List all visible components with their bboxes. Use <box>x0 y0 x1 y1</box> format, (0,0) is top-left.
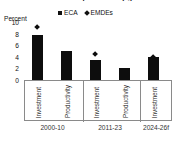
square-marker-icon <box>58 11 62 15</box>
period-label-2024-26f: 2024-26f <box>139 124 173 131</box>
bar-eca-2011-23-investment <box>90 60 101 80</box>
category-label-4: Productivity <box>123 85 129 118</box>
category-frame: Investment Productivity Investment Produ… <box>24 80 172 121</box>
group-separator-1 <box>83 81 84 122</box>
chart-title: Investment and productivity growth <box>0 0 178 1</box>
category-label-2: Productivity <box>65 85 71 118</box>
period-label-2000-10: 2000-10 <box>24 124 81 131</box>
chart-figure: Investment and productivity growth ECA E… <box>0 0 178 145</box>
y-tick-4: 4 <box>4 55 19 62</box>
category-label-3: Investment <box>94 87 100 118</box>
y-tick-6: 6 <box>4 43 19 50</box>
marker-emdes-2011-23-investment <box>93 51 99 57</box>
category-label-5: Investment <box>152 87 158 118</box>
plot-area <box>24 22 172 80</box>
marker-emdes-2000-10-investment <box>35 25 41 31</box>
legend-item-emdes: EMDEs <box>85 10 113 17</box>
y-tick-8: 8 <box>4 32 19 39</box>
legend-item-eca: ECA <box>58 10 78 17</box>
legend-label-emdes: EMDEs <box>91 10 113 17</box>
diamond-marker-icon <box>84 10 90 16</box>
legend-label-eca: ECA <box>64 10 78 17</box>
y-tick-2: 2 <box>4 66 19 73</box>
bar-eca-2000-10-productivity <box>61 51 72 80</box>
bar-eca-2000-10-investment <box>32 35 43 80</box>
bar-eca-2024-26f-investment <box>148 57 159 80</box>
y-tick-0: 0 <box>4 78 19 85</box>
period-label-2011-23: 2011-23 <box>81 124 139 131</box>
category-label-1: Investment <box>36 87 42 118</box>
group-separator-2 <box>140 81 141 122</box>
chart-legend: ECA EMDEs <box>58 10 113 17</box>
bar-eca-2011-23-productivity <box>119 68 130 80</box>
y-tick-10: 10 <box>4 20 19 27</box>
